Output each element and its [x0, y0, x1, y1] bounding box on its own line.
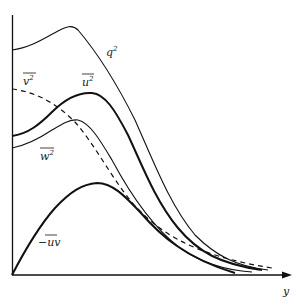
label-q2: q2: [106, 45, 118, 59]
curve-uv: [12, 183, 235, 275]
label-v2: v2: [23, 74, 34, 88]
label-uv: −uv: [38, 236, 61, 249]
x-axis-label: y: [282, 285, 290, 298]
label-w2: w2: [40, 149, 54, 163]
turbulence-profile-diagram: q2 v2 u2 w2 −uv y: [0, 0, 302, 305]
label-u2: u2: [82, 75, 94, 89]
x-axis-arrow-icon: [282, 272, 292, 279]
